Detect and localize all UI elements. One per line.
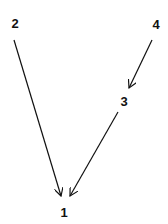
node-label-4: 4 <box>152 17 160 32</box>
edge-4-to-3-arrow-icon <box>129 40 152 88</box>
node-label-3: 3 <box>120 94 127 109</box>
edge-2-to-1-arrow-icon <box>14 40 61 196</box>
nodes-group: 1234 <box>11 16 160 220</box>
edges-group <box>14 40 152 196</box>
graph-diagram: 1234 <box>0 0 168 224</box>
edge-3-to-1-arrow-icon <box>70 112 118 196</box>
node-label-1: 1 <box>60 205 67 220</box>
node-label-2: 2 <box>11 16 18 31</box>
